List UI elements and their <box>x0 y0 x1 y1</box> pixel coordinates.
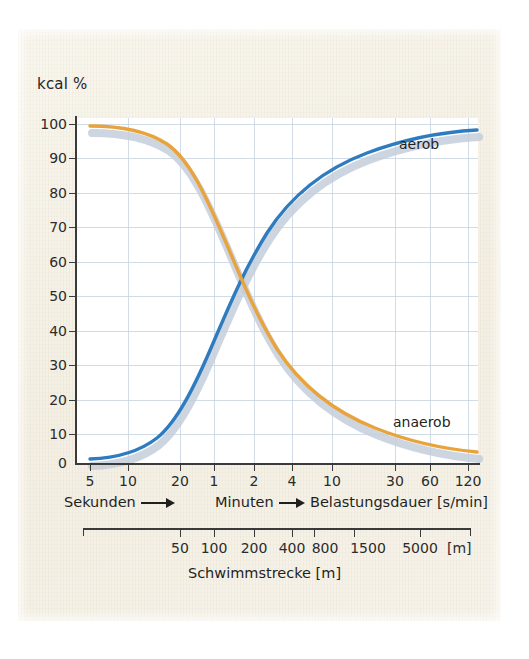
aerob-curve <box>90 130 477 459</box>
duration-axis-title-label: Belastungsdauer [s/min] <box>310 494 488 510</box>
x-tick-mark-10m <box>332 464 333 471</box>
y-tick-label-10: 10 <box>27 427 67 441</box>
y-tick-label-30: 30 <box>27 358 67 372</box>
x-tick-mark-60m <box>430 464 431 471</box>
distance-label-200: 200 <box>241 540 268 556</box>
distance-tick-1500 <box>354 529 355 537</box>
duration-seconds-label: Sekunden <box>64 494 136 510</box>
series-label-anaerob: anaerob <box>393 414 451 430</box>
duration-segment-minutes: Minuten <box>215 494 305 510</box>
distance-tick-5000 <box>420 529 421 537</box>
y-tick-label-group: 100 90 80 70 60 50 40 30 20 10 0 <box>22 0 67 659</box>
arrow-right-icon <box>279 498 305 507</box>
x-tick-label-30m: 30 <box>386 473 404 489</box>
arrow-right-icon <box>141 498 175 507</box>
distance-tick-800 <box>314 529 315 537</box>
series-label-aerob: aerob <box>399 136 439 152</box>
distance-axis-line <box>83 528 471 530</box>
y-tick-label-50: 50 <box>27 289 67 303</box>
duration-segment-seconds: Sekunden <box>64 494 175 510</box>
y-tick-label-100: 100 <box>27 117 67 131</box>
x-tick-label-20s: 20 <box>171 473 189 489</box>
y-tick-label-0: 0 <box>27 456 67 470</box>
duration-axis-row: Sekunden Minuten Belastungsdauer [s/min] <box>0 494 529 516</box>
anaerob-curve <box>90 126 477 452</box>
x-tick-mark-1m <box>214 464 215 471</box>
x-tick-mark-10s <box>128 464 129 471</box>
y-tick-mark-90 <box>69 158 77 159</box>
x-tick-mark-120m <box>468 464 469 471</box>
y-tick-label-60: 60 <box>27 255 67 269</box>
x-tick-label-60m: 60 <box>421 473 439 489</box>
x-tick-label-120m: 120 <box>455 473 482 489</box>
distance-unit-label: [m] <box>447 540 472 556</box>
y-tick-mark-20 <box>69 400 77 401</box>
distance-label-800: 800 <box>312 540 339 556</box>
y-tick-label-20: 20 <box>27 393 67 407</box>
anaerob-curve-shadow <box>92 133 479 459</box>
figure-container: kcal % <box>0 0 529 659</box>
distance-label-5000: 5000 <box>402 540 438 556</box>
x-tick-label-10m: 10 <box>323 473 341 489</box>
duration-axis-title: Belastungsdauer [s/min] <box>310 494 488 510</box>
distance-tick-50 <box>180 529 181 537</box>
distance-label-100: 100 <box>201 540 228 556</box>
distance-tick-200 <box>254 529 255 537</box>
y-tick-mark-100 <box>69 124 77 125</box>
x-axis-line <box>75 463 480 465</box>
distance-label-400: 400 <box>279 540 306 556</box>
y-tick-mark-50 <box>69 296 77 297</box>
y-tick-label-40: 40 <box>27 324 67 338</box>
y-tick-mark-40 <box>69 331 77 332</box>
x-tick-label-10s: 10 <box>119 473 137 489</box>
y-tick-label-90: 90 <box>27 151 67 165</box>
x-tick-mark-5 <box>90 464 91 471</box>
x-tick-label-5: 5 <box>86 473 95 489</box>
y-tick-label-70: 70 <box>27 220 67 234</box>
curves-svg <box>77 118 478 463</box>
x-tick-mark-20s <box>180 464 181 471</box>
y-tick-mark-60 <box>69 262 77 263</box>
y-tick-mark-10 <box>69 434 77 435</box>
distance-tick-400 <box>292 529 293 537</box>
x-tick-label-2m: 2 <box>250 473 259 489</box>
distance-axis-caption: Schwimmstrecke [m] <box>0 565 529 581</box>
plot-area <box>77 118 478 463</box>
x-tick-mark-30m <box>395 464 396 471</box>
x-tick-mark-2m <box>254 464 255 471</box>
y-tick-mark-70 <box>69 227 77 228</box>
x-tick-mark-4m <box>292 464 293 471</box>
duration-minutes-label: Minuten <box>215 494 274 510</box>
x-tick-label-1m: 1 <box>210 473 219 489</box>
distance-label-50: 50 <box>171 540 189 556</box>
y-tick-mark-30 <box>69 365 77 366</box>
y-tick-label-80: 80 <box>27 186 67 200</box>
x-tick-label-4m: 4 <box>288 473 297 489</box>
distance-tick-100 <box>214 529 215 537</box>
y-axis-line <box>75 116 77 465</box>
y-tick-mark-80 <box>69 193 77 194</box>
distance-label-1500: 1500 <box>350 540 386 556</box>
